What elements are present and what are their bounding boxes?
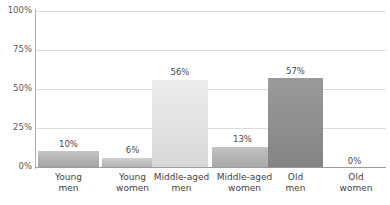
- value-label-old-men: 57%: [268, 67, 323, 76]
- gridline-100: [36, 11, 386, 12]
- x-label-old-men-line2: men: [268, 183, 323, 194]
- y-tick-50: 50%: [2, 84, 32, 93]
- x-label-old-women-line2: women: [327, 183, 385, 194]
- bar-middle-aged-women: [212, 147, 273, 167]
- bar-chart: 100% 75% 50% 25% 0% 10% 6% 56% 13% 57% 0…: [0, 0, 390, 205]
- x-axis-line: [35, 167, 386, 168]
- value-label-old-women: 0%: [327, 157, 382, 166]
- x-label-old-men: Old men: [268, 172, 323, 194]
- gridline-50: [36, 89, 386, 90]
- bar-young-men: [38, 151, 99, 167]
- y-tick-0: 0%: [2, 162, 32, 171]
- value-label-young-women: 6%: [102, 146, 163, 155]
- value-label-young-men: 10%: [38, 140, 99, 149]
- value-label-middle-aged-women: 13%: [212, 135, 273, 144]
- bar-old-men: [268, 78, 323, 167]
- x-label-young-men-line2: men: [33, 183, 104, 194]
- x-label-old-women-line1: Old: [327, 172, 385, 183]
- x-label-old-men-line1: Old: [268, 172, 323, 183]
- y-axis-line: [35, 9, 36, 169]
- gridline-25: [36, 128, 386, 129]
- x-label-old-women: Old women: [327, 172, 385, 194]
- y-tick-25: 25%: [2, 123, 32, 132]
- x-label-young-men: Young men: [33, 172, 104, 194]
- y-tick-100: 100%: [2, 6, 32, 15]
- gridline-75: [36, 50, 386, 51]
- y-tick-75: 75%: [2, 45, 32, 54]
- x-label-young-men-line1: Young: [33, 172, 104, 183]
- y-axis-tick-labels: 100% 75% 50% 25% 0%: [0, 0, 32, 205]
- value-label-middle-aged-men: 56%: [152, 68, 208, 77]
